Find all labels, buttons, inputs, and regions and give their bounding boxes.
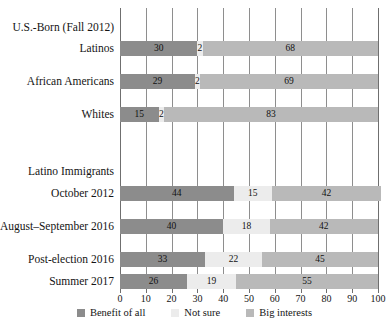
segment-big-interests: 42 bbox=[272, 186, 380, 201]
bar-row-summer-2017: Summer 2017 26 19 55 bbox=[120, 274, 378, 289]
segment-not-sure: 19 bbox=[187, 274, 236, 289]
axis-tick-label: 60 bbox=[270, 294, 280, 304]
segment-value: 33 bbox=[120, 255, 205, 265]
row-label: Whites bbox=[81, 109, 114, 121]
segment-value: 18 bbox=[223, 222, 269, 232]
bar-row-post-election-2016: Post-election 2016 33 22 45 bbox=[120, 252, 378, 267]
axis-tick-label: 50 bbox=[244, 294, 254, 304]
segment-benefit-of-all: 40 bbox=[120, 219, 223, 234]
legend-item[interactable]: Benefit of all bbox=[77, 308, 145, 319]
legend-swatch-icon bbox=[77, 309, 85, 317]
segment-value: 40 bbox=[120, 222, 223, 232]
segment-value: 19 bbox=[187, 277, 236, 287]
segment-benefit-of-all: 44 bbox=[120, 186, 234, 201]
plot-area: U.S.-Born (Fall 2012) Latino Immigrants … bbox=[120, 8, 378, 289]
x-axis: 0102030405060708090100 bbox=[120, 289, 378, 309]
row-label: Summer 2017 bbox=[49, 276, 114, 288]
axis-tick-label: 10 bbox=[141, 294, 151, 304]
segment-value: 15 bbox=[234, 189, 273, 199]
chart-legend: Benefit of allNot sureBig interests bbox=[0, 308, 389, 319]
bar-row-october-2012: October 2012 44 15 42 bbox=[120, 186, 378, 201]
segment-benefit-of-all: 15 bbox=[120, 107, 159, 122]
bar-row-latinos: Latinos 30 2 68 bbox=[120, 41, 378, 56]
row-label: August–September 2016 bbox=[0, 221, 114, 233]
legend-label: Not sure bbox=[184, 308, 220, 319]
legend-label: Big interests bbox=[259, 308, 312, 319]
segment-value: 42 bbox=[270, 222, 378, 232]
segment-value: 83 bbox=[164, 110, 378, 120]
axis-tick-label: 0 bbox=[118, 294, 123, 304]
row-label: African Americans bbox=[27, 76, 114, 88]
gridline bbox=[378, 8, 379, 289]
axis-tick-label: 80 bbox=[321, 294, 331, 304]
bar-row-august-september-2016: August–September 2016 40 18 42 bbox=[120, 219, 378, 234]
axis-tick-label: 100 bbox=[371, 294, 386, 304]
row-label: Latinos bbox=[80, 43, 115, 55]
row-label: October 2012 bbox=[51, 188, 114, 200]
segment-value: 22 bbox=[205, 255, 262, 265]
row-label: Post-election 2016 bbox=[28, 254, 114, 266]
segment-big-interests: 69 bbox=[200, 74, 378, 89]
group-label-us-born: U.S.-Born (Fall 2012) bbox=[12, 22, 114, 34]
segment-big-interests: 68 bbox=[203, 41, 378, 56]
legend-swatch-icon bbox=[171, 309, 179, 317]
axis-tick-label: 70 bbox=[296, 294, 306, 304]
segment-value: 45 bbox=[262, 255, 378, 265]
stacked-bar-chart: U.S.-Born (Fall 2012) Latino Immigrants … bbox=[0, 0, 389, 327]
legend-item[interactable]: Not sure bbox=[171, 308, 220, 319]
bar-row-african-americans: African Americans 29 2 69 bbox=[120, 74, 378, 89]
segment-value: 55 bbox=[236, 277, 378, 287]
legend-swatch-icon bbox=[246, 309, 254, 317]
segment-big-interests: 42 bbox=[270, 219, 378, 234]
segment-benefit-of-all: 33 bbox=[120, 252, 205, 267]
segment-value: 26 bbox=[120, 277, 187, 287]
segment-value: 44 bbox=[120, 189, 234, 199]
group-label-latino-immigrants: Latino Immigrants bbox=[28, 166, 114, 178]
segment-value: 30 bbox=[120, 44, 197, 54]
segment-value: 68 bbox=[203, 44, 378, 54]
segment-not-sure: 22 bbox=[205, 252, 262, 267]
legend-item[interactable]: Big interests bbox=[246, 308, 312, 319]
segment-value: 29 bbox=[120, 77, 195, 87]
segment-benefit-of-all: 29 bbox=[120, 74, 195, 89]
axis-tick-label: 90 bbox=[347, 294, 357, 304]
segment-benefit-of-all: 26 bbox=[120, 274, 187, 289]
segment-big-interests: 55 bbox=[236, 274, 378, 289]
segment-value: 42 bbox=[272, 189, 380, 199]
segment-benefit-of-all: 30 bbox=[120, 41, 197, 56]
segment-big-interests: 83 bbox=[164, 107, 378, 122]
segment-big-interests: 45 bbox=[262, 252, 378, 267]
segment-not-sure: 15 bbox=[234, 186, 273, 201]
axis-tick-label: 30 bbox=[192, 294, 202, 304]
legend-label: Benefit of all bbox=[90, 308, 145, 319]
bar-row-whites: Whites 15 2 83 bbox=[120, 107, 378, 122]
segment-not-sure: 18 bbox=[223, 219, 269, 234]
axis-tick-label: 20 bbox=[167, 294, 177, 304]
segment-value: 15 bbox=[120, 110, 159, 120]
segment-value: 69 bbox=[200, 77, 378, 87]
axis-tick-label: 40 bbox=[218, 294, 228, 304]
